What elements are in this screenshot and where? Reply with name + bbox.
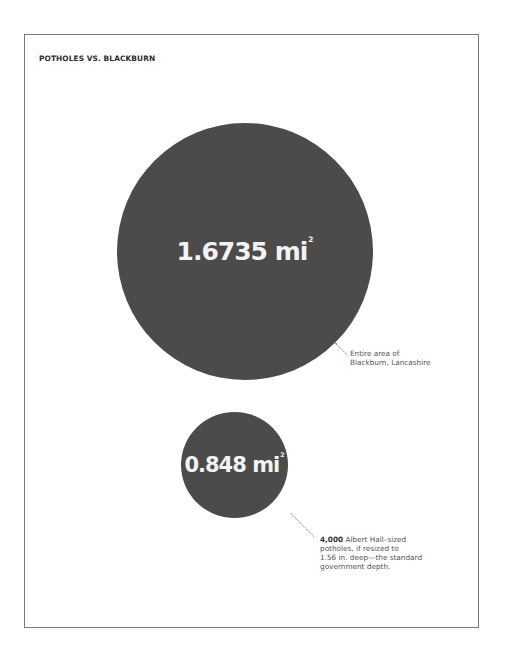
potholes-area-value: 0.848 mi2	[184, 453, 284, 477]
chart-title: POTHOLES VS. BLACKBURN	[39, 54, 155, 63]
potholes-area-circle: 0.848 mi2	[181, 412, 288, 518]
potholes-annotation: 4,000 Albert Hall–sized potholes, if res…	[320, 535, 422, 571]
blackburn-annotation: Entire area of Blackburn, Lancashire	[350, 349, 431, 367]
blackburn-area-circle: 1.6735 mi2	[117, 123, 373, 380]
blackburn-area-value: 1.6735 mi2	[176, 237, 313, 266]
